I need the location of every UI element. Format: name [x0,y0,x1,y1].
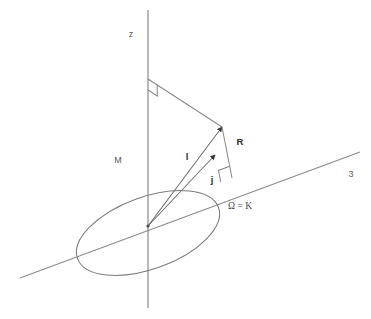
vector-R-segment [222,127,232,178]
origin-point [146,224,149,227]
diagram-svg: z 3 M l j R Ω = K [0,0,371,319]
label-mass-point: M [114,155,122,165]
apex-to-l-tip-line [148,79,222,127]
label-node-line-axis: 3 [348,169,353,179]
label-vector-R: R [237,136,244,147]
label-vector-j: j [210,174,214,185]
label-vector-l: l [186,151,189,162]
vector-j-arrow [148,155,215,226]
label-ascending-node: Ω = K [228,201,252,211]
right-angle-marker-top [148,85,157,96]
label-z-axis: z [129,29,134,39]
node-line-axis [20,152,360,278]
right-angle-marker-node [218,166,229,182]
vector-diagram-canvas: z 3 M l j R Ω = K [0,0,371,319]
